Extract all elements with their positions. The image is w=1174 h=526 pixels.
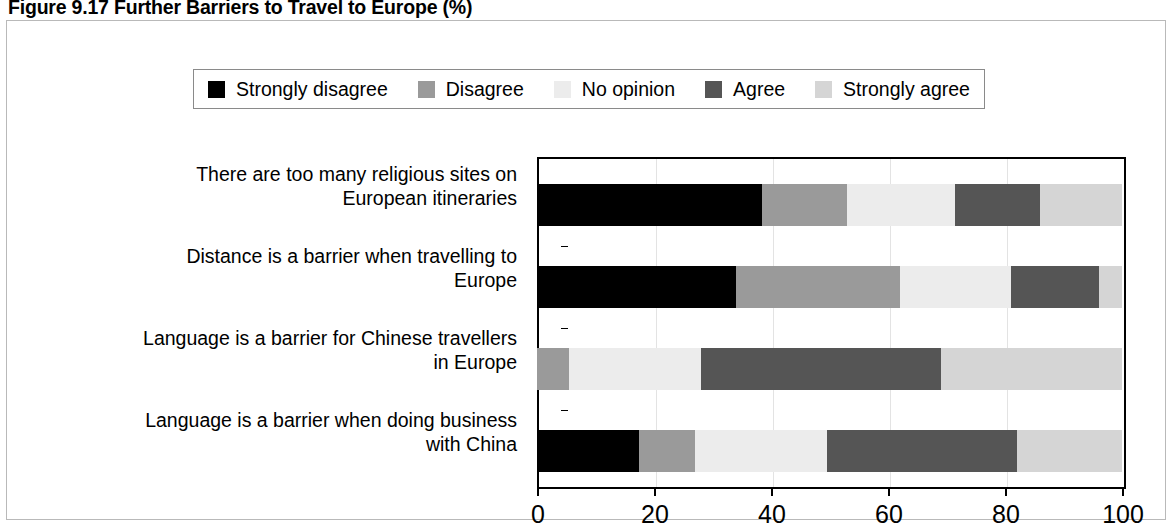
legend-item[interactable]: No opinion [554, 79, 675, 99]
category-label-line: in Europe [57, 350, 517, 374]
x-axis-tick [771, 487, 773, 496]
x-axis-tick-label: 40 [758, 499, 786, 526]
x-axis-tick-label: 20 [641, 499, 669, 526]
x-axis-tick-label: 60 [875, 499, 903, 526]
x-axis-tick [1122, 487, 1124, 496]
chart-frame: Strongly disagreeDisagreeNo opinionAgree… [6, 20, 1166, 520]
figure-caption: Figure 9.17 Further Barriers to Travel t… [8, 0, 472, 20]
x-axis-tick [537, 487, 539, 496]
bar-row[interactable] [537, 184, 1122, 226]
legend-item[interactable]: Disagree [418, 79, 524, 99]
legend-item-label: No opinion [582, 79, 675, 99]
category-label: Language is a barrier when doing busines… [57, 408, 517, 456]
legend-item[interactable]: Strongly agree [815, 79, 970, 99]
bar-row[interactable] [537, 348, 1122, 390]
category-axis-labels: There are too many religious sites onEur… [47, 157, 517, 487]
category-label-line: There are too many religious sites on [57, 162, 517, 186]
legend-swatch-icon [208, 81, 225, 98]
x-axis-tick-label: 100 [1102, 499, 1144, 526]
bar-segment[interactable] [736, 266, 900, 308]
bar-segment[interactable] [900, 266, 1011, 308]
chart-legend: Strongly disagreeDisagreeNo opinionAgree… [193, 69, 985, 109]
category-label-line: Language is a barrier when doing busines… [57, 408, 517, 432]
legend-swatch-icon [418, 81, 435, 98]
bar-segment[interactable] [695, 430, 827, 472]
bar-segment[interactable] [1017, 430, 1122, 472]
bar-segment[interactable] [941, 348, 1122, 390]
bar-segment[interactable] [762, 184, 847, 226]
bar-segment[interactable] [569, 348, 701, 390]
bar-segment[interactable] [537, 266, 736, 308]
legend-item[interactable]: Strongly disagree [208, 79, 388, 99]
plot-area: 020406080100 [527, 157, 1123, 487]
x-axis-line [537, 487, 1124, 489]
bar-segment[interactable] [537, 430, 639, 472]
category-label-line: Distance is a barrier when travelling to [57, 244, 517, 268]
x-axis-tick-label: 0 [531, 499, 545, 526]
legend-swatch-icon [554, 81, 571, 98]
category-label-line: European itineraries [57, 186, 517, 210]
category-label-line: Europe [57, 268, 517, 292]
bar-segment[interactable] [955, 184, 1040, 226]
bar-segment[interactable] [639, 430, 695, 472]
bar-segment[interactable] [537, 184, 762, 226]
bar-segment[interactable] [537, 348, 569, 390]
x-axis-tick [888, 487, 890, 496]
bar-segment[interactable] [701, 348, 941, 390]
bar-segment[interactable] [847, 184, 955, 226]
category-label: Distance is a barrier when travelling to… [57, 244, 517, 292]
x-axis-tick [1005, 487, 1007, 496]
legend-item[interactable]: Agree [705, 79, 785, 99]
category-label: Language is a barrier for Chinese travel… [57, 326, 517, 374]
bar-row[interactable] [537, 266, 1122, 308]
bar-segment[interactable] [1011, 266, 1099, 308]
category-label-line: Language is a barrier for Chinese travel… [57, 326, 517, 350]
bar-segment[interactable] [827, 430, 1017, 472]
category-label: There are too many religious sites onEur… [57, 162, 517, 210]
legend-swatch-icon [815, 81, 832, 98]
category-label-line: with China [57, 432, 517, 456]
legend-item-label: Agree [733, 79, 785, 99]
x-axis-tick-label: 80 [992, 499, 1020, 526]
bar-row[interactable] [537, 430, 1122, 472]
legend-item-label: Disagree [446, 79, 524, 99]
x-axis-tick [654, 487, 656, 496]
legend-item-label: Strongly agree [843, 79, 970, 99]
legend-swatch-icon [705, 81, 722, 98]
legend-item-label: Strongly disagree [236, 79, 388, 99]
bar-segment[interactable] [1099, 266, 1122, 308]
bar-segment[interactable] [1040, 184, 1122, 226]
